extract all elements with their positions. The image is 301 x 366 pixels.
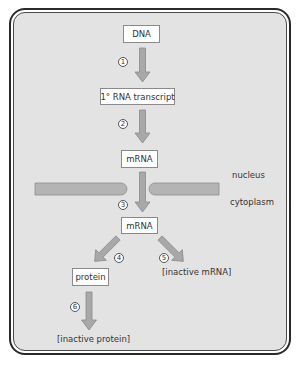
node-mrna-nucleus: mRNA <box>121 150 158 168</box>
arrow-step-1-icon <box>135 48 150 82</box>
arrow-step-2-icon <box>135 110 150 143</box>
arrow-step-6-icon <box>82 292 97 330</box>
step-4-marker: 4 <box>114 253 124 263</box>
arrows-layer <box>0 0 301 366</box>
node-dna: DNA <box>123 25 160 43</box>
label-nucleus: nucleus <box>232 170 265 180</box>
step-5-marker: 5 <box>159 253 169 263</box>
node-inactive-protein: [inactive protein] <box>57 334 130 344</box>
step-3-marker: 3 <box>118 200 128 210</box>
step-6-marker: 6 <box>70 302 80 312</box>
arrow-step-3-icon <box>135 172 150 212</box>
node-inactive-mrna: [inactive mRNA] <box>162 267 231 277</box>
node-protein: protein <box>72 268 109 286</box>
label-cytoplasm: cytoplasm <box>230 197 274 207</box>
node-primary-rna-transcript: 1° RNA transcript <box>100 88 175 105</box>
node-mrna-cytoplasm: mRNA <box>121 217 158 234</box>
step-2-marker: 2 <box>118 119 128 129</box>
step-1-marker: 1 <box>118 57 128 67</box>
nuclear-membrane <box>35 183 219 195</box>
